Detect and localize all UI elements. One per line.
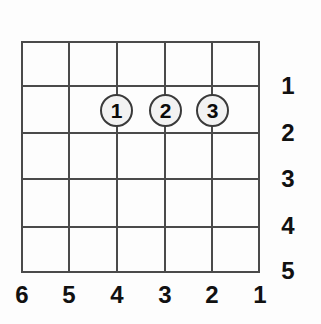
string-line-3 — [164, 41, 166, 273]
fret-label-2: 2 — [275, 121, 301, 145]
fret-line-1 — [21, 85, 260, 87]
fret-label-5: 5 — [275, 259, 301, 283]
string-line-4 — [116, 41, 118, 273]
string-label-4: 4 — [104, 283, 130, 307]
string-line-2 — [211, 41, 213, 273]
string-label-5: 5 — [56, 283, 82, 307]
fret-label-3: 3 — [275, 167, 301, 191]
fret-line-3 — [21, 178, 260, 180]
string-line-6 — [21, 41, 23, 273]
finger-dot-1[interactable]: 1 — [100, 94, 133, 127]
fret-line-nut — [21, 41, 260, 43]
string-label-6: 6 — [9, 283, 35, 307]
finger-dot-label: 2 — [160, 100, 172, 121]
fret-line-4 — [21, 226, 260, 228]
string-label-1: 1 — [247, 283, 273, 307]
fret-label-1: 1 — [275, 74, 301, 98]
finger-dot-label: 1 — [111, 100, 123, 121]
fret-label-4: 4 — [275, 214, 301, 238]
chord-diagram: 1 2 3 1 2 3 4 5 6 5 4 3 2 1 — [0, 0, 321, 324]
fret-line-5 — [21, 271, 260, 273]
string-label-2: 2 — [199, 283, 225, 307]
string-line-1 — [258, 41, 260, 273]
finger-dot-2[interactable]: 2 — [149, 94, 182, 127]
fretboard-grid — [21, 41, 260, 273]
string-label-3: 3 — [152, 283, 178, 307]
finger-dot-label: 3 — [207, 100, 219, 121]
string-line-5 — [68, 41, 70, 273]
fret-line-2 — [21, 132, 260, 134]
finger-dot-3[interactable]: 3 — [196, 94, 229, 127]
